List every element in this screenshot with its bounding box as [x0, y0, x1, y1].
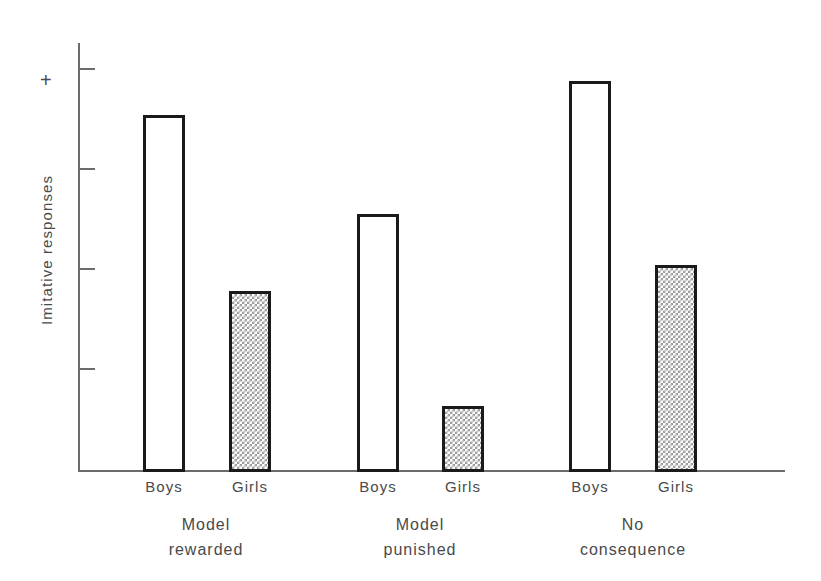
- bar-model-rewarded-girls: [229, 291, 271, 472]
- y-axis-tick-3: [80, 268, 95, 270]
- group-label-line1: No: [503, 512, 763, 537]
- group-label-line2: consequence: [503, 537, 763, 562]
- y-axis-plus-marker: +: [40, 70, 52, 90]
- category-label-girls-2: Girls: [190, 478, 310, 495]
- bar-no-consequence-girls: [655, 265, 697, 472]
- y-axis-tick-2: [80, 168, 95, 170]
- bar-model-punished-boys: [357, 214, 399, 472]
- category-label-girls-4: Girls: [403, 478, 523, 495]
- group-label-no-consequence: Noconsequence: [503, 512, 763, 562]
- bar-chart-figure: Imitative responses + BoysGirlsBoysGirls…: [0, 0, 821, 581]
- bar-no-consequence-boys: [569, 81, 611, 472]
- bar-model-punished-girls: [442, 406, 484, 472]
- y-axis-line: [78, 43, 80, 472]
- bar-model-rewarded-boys: [143, 115, 185, 472]
- category-label-girls-6: Girls: [616, 478, 736, 495]
- y-axis-tick-4: [80, 368, 95, 370]
- y-axis-tick-1: [80, 68, 95, 70]
- y-axis-title: Imitative responses: [38, 100, 55, 400]
